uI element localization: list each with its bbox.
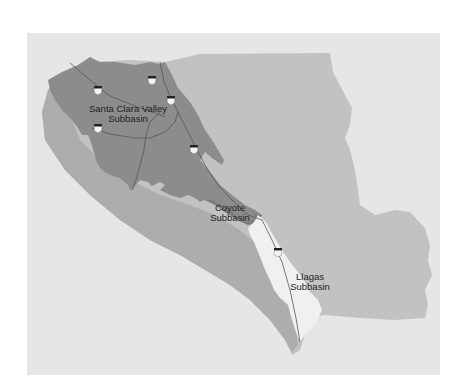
- santa-clara-valley-label-line2: Subbasin: [88, 114, 168, 124]
- llagas-label-line2: Subbasin: [290, 282, 330, 292]
- santa-clara-valley-label: Santa Clara Valley Subbasin: [88, 104, 168, 124]
- subbasin-map: [0, 0, 465, 390]
- llagas-label: Llagas Subbasin: [290, 272, 330, 292]
- coyote-label: Coyote Subbasin: [208, 203, 252, 223]
- coyote-label-line2: Subbasin: [208, 213, 252, 223]
